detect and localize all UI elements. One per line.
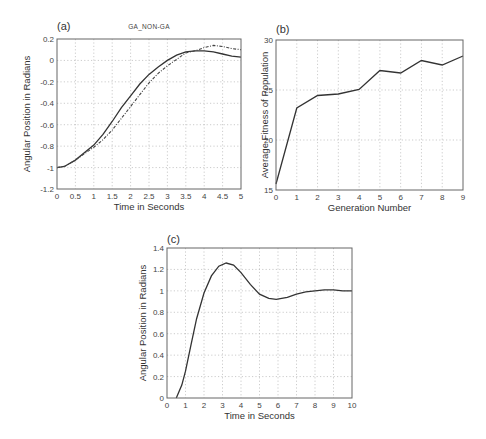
x-tick-label: 9 bbox=[461, 193, 466, 202]
x-tick-label: 2 bbox=[315, 193, 320, 202]
x-tick-label: 4 bbox=[202, 192, 207, 201]
x-tick-label: 4 bbox=[357, 193, 362, 202]
y-tick-label: -0.2 bbox=[40, 78, 54, 87]
x-tick-label: 0.5 bbox=[70, 192, 82, 201]
figure: 00.511.522.533.544.550.20-0.2-0.4-0.6-0.… bbox=[0, 0, 486, 439]
panel-label: (a) bbox=[57, 20, 70, 32]
x-tick-label: 6 bbox=[276, 401, 281, 410]
y-tick-label: 0 bbox=[160, 394, 165, 403]
y-tick-label: 0.6 bbox=[153, 330, 165, 339]
x-axis-label: Generation Number bbox=[328, 202, 411, 213]
x-tick-label: 6 bbox=[398, 193, 403, 202]
x-tick-label: 2.5 bbox=[143, 192, 155, 201]
x-tick-label: 1 bbox=[183, 401, 188, 410]
plot-frame bbox=[276, 40, 463, 190]
x-tick-label: 3.5 bbox=[180, 192, 192, 201]
x-tick-label: 0 bbox=[55, 192, 60, 201]
chart-b: 012345678930252015Generation NumberAvera… bbox=[259, 23, 466, 213]
y-tick-label: 0.8 bbox=[153, 308, 165, 317]
y-axis-label: Angular Position in Radians bbox=[137, 264, 148, 381]
x-tick-label: 0 bbox=[165, 401, 170, 410]
x-tick-label: 2 bbox=[128, 192, 133, 201]
y-tick-label: 1 bbox=[160, 287, 165, 296]
y-tick-label: -1.2 bbox=[40, 185, 54, 194]
y-tick-label: 1.4 bbox=[153, 244, 165, 253]
x-tick-label: 9 bbox=[331, 401, 336, 410]
x-tick-label: 5 bbox=[257, 401, 262, 410]
x-tick-label: 3 bbox=[165, 192, 170, 201]
x-tick-label: 10 bbox=[348, 401, 357, 410]
panel-label: (b) bbox=[276, 23, 289, 35]
x-tick-label: 1.5 bbox=[107, 192, 119, 201]
y-tick-label: -0.4 bbox=[40, 99, 54, 108]
chart-a: 00.511.522.533.544.550.20-0.2-0.4-0.6-0.… bbox=[21, 20, 244, 212]
grid bbox=[276, 40, 463, 190]
x-tick-label: 7 bbox=[294, 401, 299, 410]
y-axis-label: Angular Position in Radians bbox=[21, 55, 32, 172]
x-tick-label: 8 bbox=[440, 193, 445, 202]
x-tick-label: 8 bbox=[313, 401, 318, 410]
y-tick-label: -1 bbox=[47, 164, 55, 173]
x-tick-label: 2 bbox=[202, 401, 207, 410]
y-tick-label: 30 bbox=[264, 36, 273, 45]
y-tick-label: 15 bbox=[264, 186, 273, 195]
y-tick-label: 1.2 bbox=[153, 265, 165, 274]
x-axis-label: Time in Seconds bbox=[224, 410, 295, 421]
x-tick-label: 0 bbox=[274, 193, 279, 202]
y-tick-label: 0 bbox=[50, 56, 55, 65]
y-tick-label: 0.2 bbox=[153, 373, 165, 382]
x-tick-label: 3 bbox=[336, 193, 341, 202]
x-axis-label: Time in Seconds bbox=[114, 201, 185, 212]
y-tick-label: 0.4 bbox=[153, 351, 165, 360]
x-tick-label: 3 bbox=[220, 401, 225, 410]
chart-c: 0123456789101.41.210.80.60.40.20Time in … bbox=[137, 233, 357, 421]
series-line-response bbox=[176, 263, 352, 398]
x-tick-label: 4.5 bbox=[217, 192, 229, 201]
x-tick-label: 1 bbox=[92, 192, 97, 201]
series-line-ga bbox=[57, 51, 241, 168]
y-tick-label: 0.2 bbox=[43, 35, 55, 44]
x-tick-label: 1 bbox=[295, 193, 300, 202]
y-tick-label: -0.8 bbox=[40, 142, 54, 151]
y-axis-label: Average Fitness of Population bbox=[259, 52, 270, 179]
series-line-average-fitness bbox=[276, 56, 463, 184]
x-tick-label: 7 bbox=[419, 193, 424, 202]
grid bbox=[167, 248, 352, 398]
x-tick-label: 5 bbox=[239, 192, 244, 201]
grid bbox=[57, 39, 241, 189]
panel-label: (c) bbox=[167, 233, 180, 245]
chart-title: GA_NON-GA bbox=[128, 23, 170, 31]
x-tick-label: 5 bbox=[378, 193, 383, 202]
y-tick-label: -0.6 bbox=[40, 121, 54, 130]
x-tick-label: 4 bbox=[239, 401, 244, 410]
